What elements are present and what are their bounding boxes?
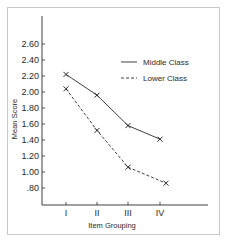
legend-label-lower-class: Lower Class (143, 74, 187, 83)
x-marker-icon (126, 165, 131, 170)
y-tick-label: 2.40 (21, 55, 39, 65)
y-tick-label: .80 (26, 183, 39, 193)
y-tick-label: 2.00 (21, 87, 39, 97)
legend: Middle Class Lower Class (121, 58, 189, 83)
x-marker-icon (126, 123, 131, 128)
x-axis-title: Item Grouping (88, 221, 136, 230)
x-marker-icon (64, 72, 69, 77)
series-line-middle-class (66, 74, 160, 139)
x-tick-label: IV (156, 208, 165, 218)
x-tick-label: III (124, 208, 132, 218)
x-marker-icon (164, 181, 169, 186)
x-tick-label: II (94, 208, 99, 218)
y-tick-label: 2.20 (21, 71, 39, 81)
y-tick-label: 1.60 (21, 119, 39, 129)
line-chart: .801.001.201.401.601.802.002.202.402.60 … (0, 0, 228, 242)
series-line-lower-class (66, 89, 166, 183)
x-tick-label: I (65, 208, 68, 218)
y-tick-label: 1.40 (21, 135, 39, 145)
series-group (64, 72, 169, 186)
y-tick-label: 1.80 (21, 103, 39, 113)
y-ticks: .801.001.201.401.601.802.002.202.402.60 (21, 39, 45, 193)
x-marker-icon (95, 93, 100, 98)
y-tick-label: 1.00 (21, 167, 39, 177)
x-ticks: IIIIIIIV (65, 202, 165, 218)
x-marker-icon (64, 86, 69, 91)
x-marker-icon (158, 137, 163, 142)
y-tick-label: 1.20 (21, 151, 39, 161)
x-marker-icon (95, 128, 100, 133)
y-axis-title: Mean Score (10, 99, 19, 139)
y-tick-label: 2.60 (21, 39, 39, 49)
legend-label-middle-class: Middle Class (143, 58, 189, 67)
